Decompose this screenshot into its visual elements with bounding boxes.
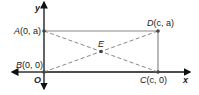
label-D: D(c, a)	[147, 18, 174, 28]
origin-label: O	[34, 75, 41, 85]
point-D	[156, 29, 160, 33]
label-E: E	[98, 39, 105, 49]
point-C	[156, 70, 160, 74]
point-B	[42, 70, 46, 74]
point-A	[42, 29, 46, 33]
rectangle-diagram: y x O A(0, a) B(0, 0) C(c, 0) D(c, a) E	[0, 0, 199, 95]
label-A: A(0, a)	[13, 26, 41, 36]
label-B: B(0, 0)	[16, 60, 43, 70]
y-axis-label: y	[34, 3, 41, 13]
x-axis-label: x	[182, 75, 189, 85]
label-C: C(c, 0)	[140, 75, 167, 85]
point-E	[99, 50, 103, 54]
